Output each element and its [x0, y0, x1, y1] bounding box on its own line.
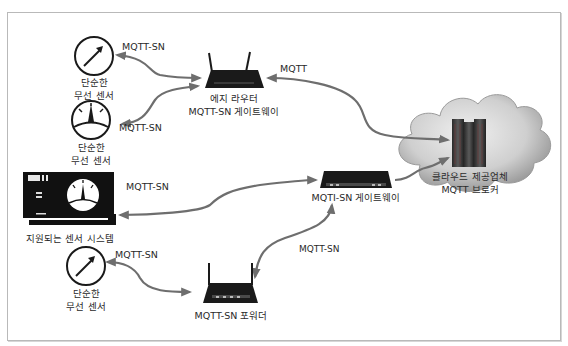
sensor1-label-line2: 무선 센서	[72, 89, 116, 102]
sensor2-label: 단순한 무선 센서	[69, 141, 113, 167]
server-rack-icon	[452, 119, 486, 167]
edge-forwarder-gateway	[255, 205, 332, 277]
sensor2-gauge-dial-icon	[72, 101, 110, 139]
edge-router-label-line2: MQTT-SN 게이트웨이	[186, 105, 282, 118]
edge-label-forwarder-gateway: MQTT-SN	[299, 244, 340, 255]
forwarder-wireless-router-icon	[203, 263, 258, 303]
sensor-system-label: 지원되는 센서 시스템	[22, 232, 118, 245]
edge-label-sensor1-router: MQTT-SN	[122, 41, 165, 52]
broker-label: 클라우드 제공업체 MQTT 브로커	[430, 170, 510, 196]
broker-label-line1: 클라우드 제공업체	[430, 170, 510, 183]
forwarder-label: MQTT-SN 포워더	[186, 309, 276, 322]
sensor1-gauge-arrow-icon	[75, 37, 113, 75]
sensor3-label-line1: 단순한	[64, 287, 108, 300]
edge-sensor3-forwarder	[107, 262, 190, 292]
broker-label-line2: MQTT 브로커	[430, 183, 510, 196]
sensor2-label-line2: 무선 센서	[69, 154, 113, 167]
edge-label-sensor3-forwarder: MQTT-SN	[115, 249, 158, 260]
edge-router-wireless-router-icon	[205, 52, 264, 88]
gateway-network-box-icon	[320, 171, 392, 188]
sensor-system-panel-icon	[23, 172, 116, 225]
sensor3-label: 단순한 무선 센서	[64, 287, 108, 313]
gateway-label: MQTI-SN 게이트웨이	[306, 191, 406, 204]
sensor2-label-line1: 단순한	[69, 141, 113, 154]
edge-router-label-line1: 에지 라우터	[186, 92, 282, 105]
sensor3-label-line2: 무선 센서	[64, 300, 108, 313]
edge-label-system-gateway: MQTT-SN	[126, 181, 169, 192]
sensor1-label-line1: 단순한	[72, 76, 116, 89]
edge-label-sensor2-router: MQTT-SN	[119, 122, 162, 133]
sensor3-gauge-arrow-icon	[67, 247, 105, 285]
edge-router-label: 에지 라우터 MQTT-SN 게이트웨이	[186, 92, 282, 118]
edge-sensor1-router	[117, 55, 200, 78]
edge-label-router-broker: MQTT	[280, 63, 307, 74]
sensor1-label: 단순한 무선 센서	[72, 76, 116, 102]
